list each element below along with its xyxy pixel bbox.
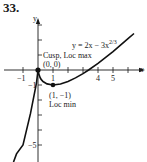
cusp-point xyxy=(35,67,40,72)
x-tick-label-5: 5 xyxy=(111,74,115,83)
min-title: Loc min xyxy=(49,100,76,109)
x-tick-label-1: 1 xyxy=(51,74,55,83)
min-point xyxy=(51,83,56,88)
y-ticks xyxy=(38,25,42,145)
cusp-title: Cusp, Loc max xyxy=(43,51,92,60)
min-coords: (1, −1) xyxy=(49,91,71,100)
equation-label: y = 2x − 3x2/3 xyxy=(72,38,117,50)
y-axis-label: y xyxy=(33,14,37,23)
x-axis-label: x xyxy=(140,65,144,74)
x-tick-label-neg1: −1 xyxy=(17,74,26,83)
x-tick-label-4: 4 xyxy=(96,74,100,83)
y-tick-label-neg1: −1 xyxy=(28,81,37,90)
cusp-coords: (0, 0) xyxy=(43,60,60,69)
y-tick-label-neg5: −5 xyxy=(28,141,37,150)
